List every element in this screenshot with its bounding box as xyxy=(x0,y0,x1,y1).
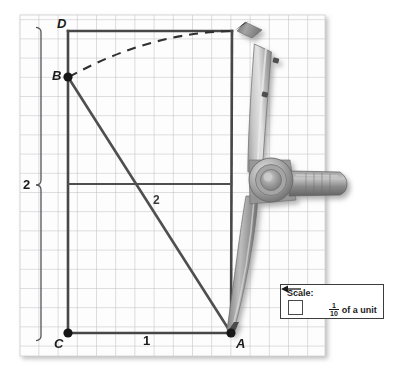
figure-canvas: D B C A 2 1 2 Scale: 1 10 of a unit xyxy=(0,0,394,371)
scale-legend-text: 1 10 of a unit xyxy=(329,302,377,317)
vertex-dot-B xyxy=(63,72,72,81)
edge-right xyxy=(231,31,232,333)
vertex-label-B: B xyxy=(52,69,61,82)
vertex-dot-C xyxy=(63,328,72,337)
compass-pivot-highlight xyxy=(264,173,273,182)
scale-fraction-numerator: 1 xyxy=(331,302,337,309)
compass-handle-highlight xyxy=(296,175,338,176)
left-arrow-icon xyxy=(281,285,301,293)
vertex-dot-A xyxy=(226,328,235,337)
vertex-label-D: D xyxy=(57,17,66,30)
scale-fraction-denominator: 10 xyxy=(329,309,339,317)
vertex-label-A: A xyxy=(236,337,245,350)
scale-legend: Scale: 1 10 of a unit xyxy=(280,284,384,319)
measure-label-height: 2 xyxy=(23,178,30,191)
vertex-label-C: C xyxy=(54,337,63,350)
measure-label-diagonal: 2 xyxy=(153,194,160,206)
measure-label-base: 1 xyxy=(143,334,150,347)
scale-unit-text: of a unit xyxy=(342,305,377,315)
scale-fraction: 1 10 xyxy=(329,302,339,317)
grid-square-swatch xyxy=(288,300,303,315)
